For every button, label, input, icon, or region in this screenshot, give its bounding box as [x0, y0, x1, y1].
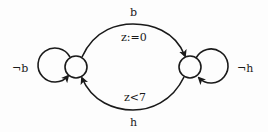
label-bottom-guard: z<7	[124, 91, 146, 104]
label-loop-left: ¬b	[12, 62, 28, 75]
label-loop-right: ¬h	[237, 62, 253, 75]
automaton-diagram: ¬b b z:=0 z<7 h ¬h	[0, 0, 268, 132]
state-left	[65, 56, 87, 78]
label-top-event: b	[130, 6, 137, 19]
label-top-update: z:=0	[121, 31, 147, 44]
state-right	[179, 56, 201, 78]
label-bottom-event: h	[130, 116, 137, 129]
